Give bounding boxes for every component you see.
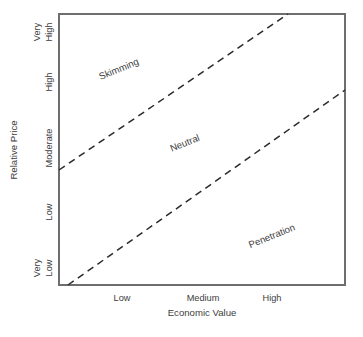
y-tick-very-high-line1: Very <box>32 22 42 41</box>
x-axis-title: Economic Value <box>168 307 237 318</box>
plot-area-frame <box>59 14 345 285</box>
pricing-strategy-chart: Very High High Moderate Low Very Low Rel… <box>0 0 363 337</box>
x-axis-tick-labels: Low Medium High <box>114 293 282 303</box>
y-axis-title: Relative Price <box>8 120 19 179</box>
y-axis-tick-labels: Very High High Moderate Low Very Low <box>32 22 54 277</box>
region-label-penetration: Penetration <box>247 221 297 250</box>
region-label-skimming: Skimming <box>97 56 140 82</box>
x-tick-low: Low <box>114 293 131 303</box>
region-label-neutral: Neutral <box>168 132 201 154</box>
y-tick-very-high-line2: High <box>44 23 54 42</box>
y-tick-moderate: Moderate <box>44 129 54 168</box>
y-tick-very-low-line1: Very <box>32 258 42 277</box>
x-tick-medium: Medium <box>187 293 220 303</box>
y-tick-very-low-line2: Low <box>44 259 54 276</box>
x-tick-high: High <box>263 293 282 303</box>
y-tick-high: High <box>44 73 54 92</box>
lower-boundary-line <box>68 90 345 285</box>
y-tick-low: Low <box>44 203 54 220</box>
chart-canvas: Very High High Moderate Low Very Low Rel… <box>0 0 363 337</box>
